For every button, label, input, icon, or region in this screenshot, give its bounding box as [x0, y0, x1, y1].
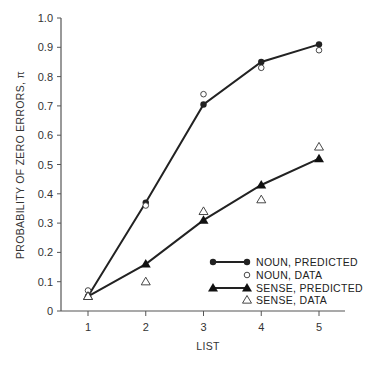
y-tick-label: 1.0: [38, 12, 53, 24]
data-point: [316, 41, 322, 47]
legend-item: NOUN, DATA: [244, 269, 322, 281]
y-tick-label: 0.2: [38, 246, 53, 258]
data-point: [315, 142, 324, 150]
x-tick-label: 3: [200, 321, 206, 333]
legend-item: SENSE, PREDICTED: [208, 282, 363, 294]
legend-label: NOUN, DATA: [256, 269, 322, 281]
data-point: [201, 91, 207, 97]
x-ticks: 12345: [85, 311, 322, 333]
legend-label: SENSE, DATA: [256, 294, 327, 306]
y-tick-label: 0.1: [38, 276, 53, 288]
data-point: [141, 277, 150, 285]
data-point: [199, 215, 209, 224]
y-axis-title: PROBABILITY OF ZERO ERRORS, π: [14, 71, 26, 259]
y-tick-label: 0.5: [38, 159, 53, 171]
data-point: [200, 101, 206, 107]
data-point: [257, 195, 266, 203]
legend-marker: [210, 259, 216, 265]
y-tick-label: 0.7: [38, 100, 53, 112]
data-point: [143, 203, 149, 209]
data-point: [199, 207, 208, 215]
y-tick-label: 0.3: [38, 217, 53, 229]
data-point: [258, 65, 264, 71]
x-axis-title: LIST: [196, 340, 220, 352]
x-tick-label: 2: [143, 321, 149, 333]
x-tick-label: 1: [85, 321, 91, 333]
legend-item: NOUN, PREDICTED: [210, 256, 358, 268]
legend-marker: [244, 272, 250, 278]
line-chart: 00.10.20.30.40.50.60.70.80.91.0 12345 LI…: [0, 0, 367, 365]
legend: NOUN, PREDICTEDNOUN, DATASENSE, PREDICTE…: [208, 256, 363, 306]
legend-item: SENSE, DATA: [243, 294, 328, 306]
y-ticks: 00.10.20.30.40.50.60.70.80.91.0: [38, 12, 61, 317]
y-tick-label: 0.9: [38, 41, 53, 53]
legend-label: NOUN, PREDICTED: [256, 256, 358, 268]
data-point: [314, 154, 324, 163]
y-tick-label: 0.8: [38, 71, 53, 83]
legend-label: SENSE, PREDICTED: [256, 282, 363, 294]
y-tick-label: 0.4: [38, 188, 53, 200]
x-tick-label: 4: [258, 321, 264, 333]
data-point: [258, 59, 264, 65]
data-point: [316, 47, 322, 53]
legend-marker: [244, 259, 250, 265]
y-tick-label: 0.6: [38, 129, 53, 141]
legend-marker: [243, 296, 252, 304]
x-tick-label: 5: [316, 321, 322, 333]
y-tick-label: 0: [47, 305, 53, 317]
